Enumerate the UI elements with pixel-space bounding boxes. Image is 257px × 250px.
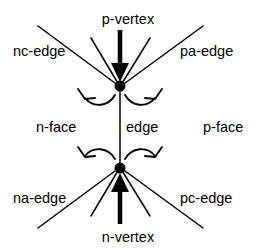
label-edge: edge [126, 119, 158, 135]
n-vertex-arrow [111, 173, 129, 224]
p-vertex-right-arc [125, 89, 162, 105]
p-vertex-left-arc [78, 89, 115, 105]
p-vertex-arrow [111, 30, 129, 82]
label-pc-edge: pc-edge [180, 190, 232, 206]
label-na-edge: na-edge [13, 190, 66, 206]
n-vertex-left-arc [78, 147, 115, 159]
p-vertex-node [115, 81, 126, 92]
edge-line-n-inner-left [91, 169, 119, 216]
label-nc-edge: nc-edge [13, 43, 65, 59]
n-vertex-right-arc [125, 147, 162, 159]
edge-adjacency-diagram: p-vertex nc-edge pa-edge n-face edge p-f… [0, 0, 257, 250]
edge-line-p-inner-right [121, 38, 150, 85]
diagram-canvas: p-vertex nc-edge pa-edge n-face edge p-f… [0, 0, 257, 250]
edge-line-n-inner-right [121, 169, 150, 216]
n-vertex-node [115, 163, 126, 174]
label-n-vertex: n-vertex [102, 229, 155, 245]
label-pa-edge: pa-edge [180, 43, 233, 59]
label-p-face: p-face [203, 119, 243, 135]
label-n-face: n-face [36, 119, 76, 135]
edge-line-p-inner-left [91, 38, 119, 85]
label-p-vertex: p-vertex [102, 11, 155, 27]
